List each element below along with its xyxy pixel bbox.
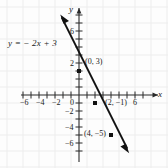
y-axis-name: y	[69, 5, 73, 14]
y-tick-label-2: 2	[70, 60, 74, 68]
x-tick-label-6: 6	[133, 99, 137, 107]
y-tick-label-neg6: −6	[65, 140, 74, 148]
x-tick-label-neg6: −6	[20, 99, 29, 107]
point-label-2-neg1: (2, −1)	[105, 99, 127, 107]
figure-background	[0, 0, 168, 168]
graph-figure	[0, 0, 168, 168]
x-axis-name: x	[158, 90, 162, 99]
origin-label: 0	[70, 99, 74, 107]
y-tick-label-neg2: −2	[65, 108, 74, 116]
point-label-4-neg5: (4, −5)	[84, 130, 106, 138]
x-tick-label-neg2: −2	[52, 99, 61, 107]
equation-label: y = − 2x + 3	[8, 39, 57, 48]
marker-2-neg1	[93, 101, 97, 105]
x-tick-label-neg4: −4	[36, 99, 45, 107]
marker-0-3	[77, 69, 81, 73]
y-tick-label-6: 6	[70, 28, 74, 36]
y-tick-label-neg4: −4	[65, 124, 74, 132]
point-label-0-3: (0, 3)	[85, 58, 102, 66]
marker-4-neg5	[109, 133, 113, 137]
